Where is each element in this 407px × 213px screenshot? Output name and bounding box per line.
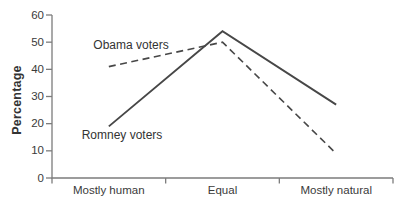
x-category-label: Mostly human bbox=[49, 184, 169, 196]
y-tick-label: 10 bbox=[14, 144, 44, 157]
series-label-obama-voters: Obama voters bbox=[93, 38, 168, 52]
y-tick-label: 50 bbox=[14, 36, 44, 49]
x-category-label: Mostly natural bbox=[276, 184, 396, 196]
y-tick-label: 30 bbox=[14, 90, 44, 103]
y-tick-label: 40 bbox=[14, 63, 44, 76]
y-tick-label: 0 bbox=[14, 172, 44, 185]
y-tick-label: 20 bbox=[14, 117, 44, 130]
series-label-romney-voters: Romney voters bbox=[82, 128, 163, 142]
x-category-label: Equal bbox=[163, 184, 283, 196]
y-tick-label: 60 bbox=[14, 9, 44, 22]
line-chart-figure: Percentage 60 50 40 30 20 10 0 Mostly hu… bbox=[0, 0, 407, 213]
plot-area bbox=[0, 0, 407, 213]
